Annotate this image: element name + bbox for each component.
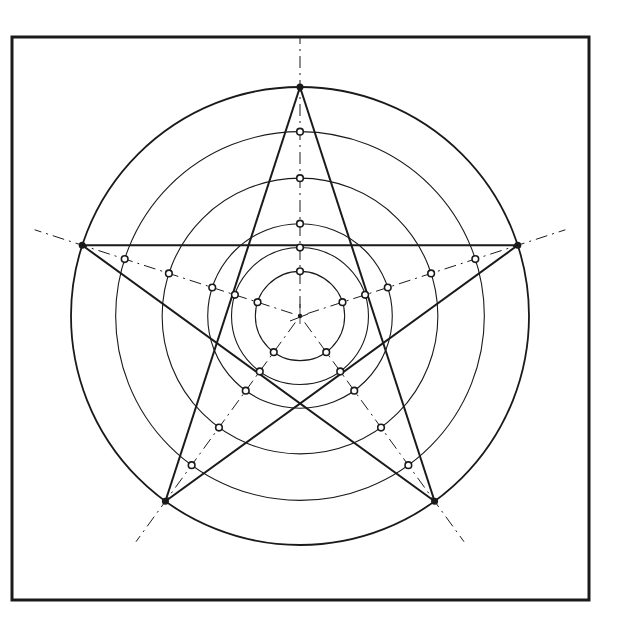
marker-point [297, 175, 304, 182]
marker-point [254, 299, 261, 306]
vertex-point [297, 84, 304, 91]
marker-point [428, 270, 435, 277]
vertex-point [79, 242, 86, 249]
marker-point [351, 387, 358, 394]
marker-point [297, 268, 304, 275]
marker-point [297, 220, 304, 227]
marker-point [256, 368, 263, 375]
center-point [290, 304, 308, 324]
marker-point [378, 424, 385, 431]
radial-axes [35, 37, 566, 542]
marker-point [270, 349, 277, 356]
marker-point [323, 349, 330, 356]
marker-point [297, 244, 304, 251]
marker-point [209, 284, 216, 291]
marker-point [242, 387, 249, 394]
marker-point [362, 292, 369, 299]
marker-point [216, 424, 223, 431]
vertex-point [431, 498, 438, 505]
vertex-point [514, 242, 521, 249]
pentagram [82, 87, 518, 501]
marker-point [121, 256, 128, 263]
vertex-point [162, 498, 169, 505]
marker-point [472, 256, 479, 263]
marker-point [166, 270, 173, 277]
pentagram-diagram [0, 0, 630, 634]
marker-point [188, 462, 195, 469]
marker-point [232, 292, 239, 299]
marker-point [384, 284, 391, 291]
marker-point [297, 128, 304, 135]
marker-point [339, 299, 346, 306]
marker-point [337, 368, 344, 375]
marker-point [405, 462, 412, 469]
